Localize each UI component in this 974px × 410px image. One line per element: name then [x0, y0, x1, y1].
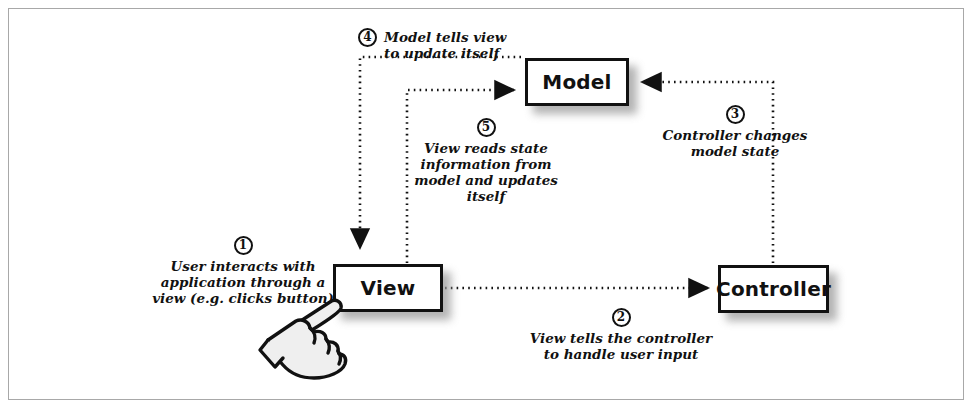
step-1-number-badge: 1 — [234, 236, 253, 255]
step-4-annotation: 4 Model tells view to update itself — [358, 28, 588, 61]
step-5-number-badge: 5 — [477, 118, 496, 137]
step-3-number-badge: 3 — [726, 105, 745, 124]
step-3-annotation: 3 Controller changes model state — [655, 105, 815, 159]
step-3-caption: Controller changes model state — [655, 127, 815, 159]
step-2-number-badge: 2 — [612, 308, 631, 327]
connector-layer — [0, 0, 974, 410]
step-2-annotation: 2 View tells the controller to handle us… — [505, 308, 737, 362]
controller-node-label: Controller — [716, 277, 831, 301]
model-node[interactable]: Model — [525, 58, 629, 106]
step-2-caption: View tells the controller to handle user… — [505, 330, 737, 362]
step-4-caption: Model tells view to update itself — [384, 28, 506, 61]
step-4-number-badge: 4 — [358, 28, 377, 47]
view-node-label: View — [361, 276, 416, 300]
step-5-annotation: 5 View reads state information from mode… — [412, 118, 560, 204]
controller-node[interactable]: Controller — [718, 265, 829, 313]
pointing-hand-cursor-icon — [252, 288, 356, 380]
diagram-canvas: Model View Controller 4 — [0, 0, 974, 410]
step-5-caption: View reads state information from model … — [412, 140, 560, 204]
model-node-label: Model — [542, 70, 611, 94]
